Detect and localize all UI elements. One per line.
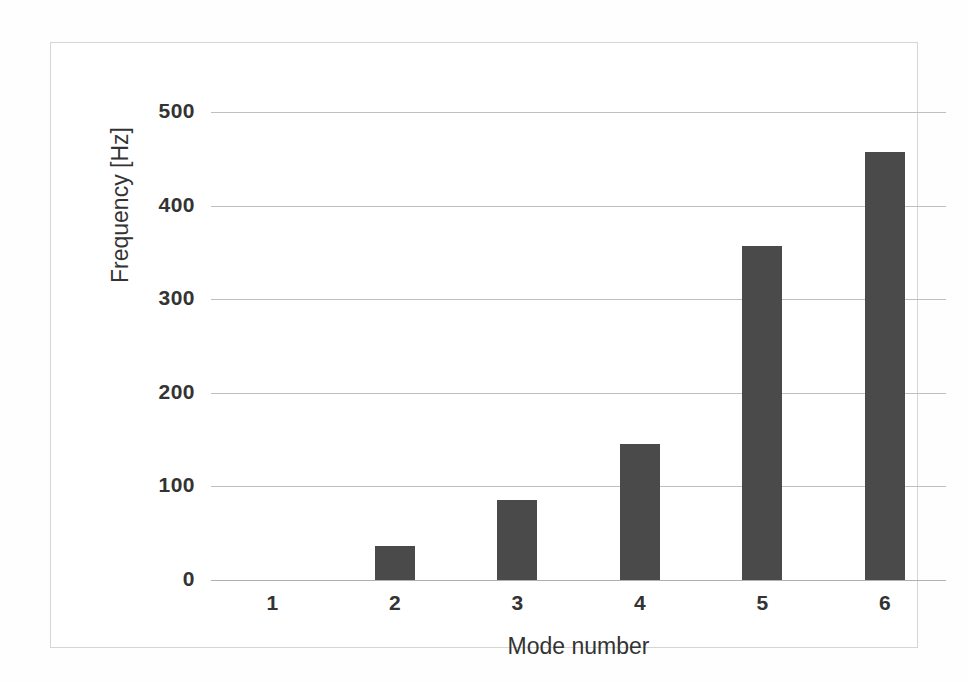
- x-tick-label: 1: [211, 591, 334, 615]
- bar-slot: [579, 112, 702, 580]
- y-axis-title: Frequency [Hz]: [107, 127, 134, 283]
- bar-slot: [456, 112, 579, 580]
- x-tick-label: 2: [334, 591, 457, 615]
- y-tick-label: 400: [125, 193, 195, 217]
- y-tick-label: 0: [125, 567, 195, 591]
- bar[interactable]: [497, 500, 537, 580]
- bar[interactable]: [375, 546, 415, 580]
- y-tick-label: 500: [125, 99, 195, 123]
- x-tick-label: 6: [824, 591, 947, 615]
- x-axis-title: Mode number: [211, 633, 946, 660]
- bar-slot: [824, 112, 947, 580]
- bar[interactable]: [865, 152, 905, 580]
- x-axis-ticks: 123456: [211, 591, 946, 625]
- x-tick-label: 3: [456, 591, 579, 615]
- y-tick-label: 100: [125, 473, 195, 497]
- bar[interactable]: [742, 246, 782, 580]
- y-tick-label: 300: [125, 286, 195, 310]
- gridline: [211, 580, 946, 581]
- figure: 0100200300400500 Frequency [Hz] 123456 M…: [0, 0, 968, 682]
- bar-slot: [701, 112, 824, 580]
- bar-slot: [211, 112, 334, 580]
- bar-slot: [334, 112, 457, 580]
- y-tick-label: 200: [125, 380, 195, 404]
- x-tick-label: 5: [701, 591, 824, 615]
- bar[interactable]: [620, 444, 660, 580]
- bar-series: [211, 112, 946, 580]
- chart-frame: 0100200300400500 Frequency [Hz] 123456 M…: [50, 42, 918, 648]
- x-tick-label: 4: [579, 591, 702, 615]
